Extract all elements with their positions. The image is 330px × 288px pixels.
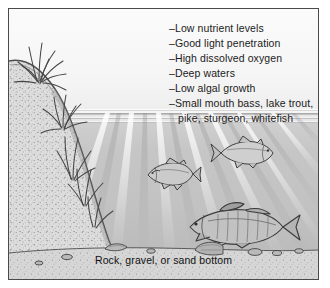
characteristics-list: –Low nutrient levels –Good light penetra… [169,21,319,126]
list-text: Low nutrient levels [175,22,264,34]
list-text: High dissolved oxygen [175,52,282,64]
bottom-caption: Rock, gravel, or sand bottom [9,254,318,266]
list-text: Small mouth bass, lake trout, [175,97,313,109]
list-text: Good light penetration [175,37,281,49]
characteristic-item: –High dissolved oxygen [169,51,319,66]
characteristic-item-continuation: pike, sturgeon, whitefish [169,111,319,126]
characteristic-item: –Low nutrient levels [169,21,319,36]
characteristic-item: –Small mouth bass, lake trout, [169,96,319,111]
lake-diagram-figure: –Low nutrient levels –Good light penetra… [0,0,330,288]
characteristic-item: –Low algal growth [169,81,319,96]
illustration-frame: –Low nutrient levels –Good light penetra… [8,8,319,280]
fish-midwater-left [144,157,202,191]
fish-upper-right [209,135,279,169]
list-text: Deep waters [175,67,235,79]
list-text: Low algal growth [175,82,255,94]
characteristic-item: –Deep waters [169,66,319,81]
vegetation-group [9,9,169,229]
characteristic-item: –Good light penetration [169,36,319,51]
